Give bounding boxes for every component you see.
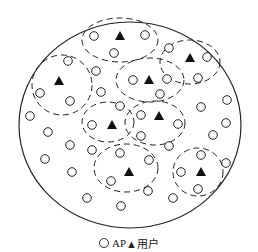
user-triangle-icon <box>154 111 164 120</box>
ap-circle-icon <box>169 194 178 203</box>
legend-user-label: ▲用户 <box>126 238 159 250</box>
ap-circle-icon <box>88 121 97 130</box>
user-triangle-icon <box>196 167 206 176</box>
ap-circle-icon <box>110 49 119 58</box>
user-triangle-icon <box>54 76 64 85</box>
legend: AP▲用户 <box>0 235 258 251</box>
ap-circle-icon <box>145 156 154 165</box>
ap-circle-icon <box>203 53 212 62</box>
ap-circle-icon <box>222 119 231 128</box>
ap-circle-icon <box>116 102 125 111</box>
ap-circle-icon <box>41 155 50 164</box>
ap-circle-icon <box>197 103 206 112</box>
ap-circle-icon <box>177 168 186 177</box>
ap-circle-icon <box>129 76 138 85</box>
ap-circle-icon <box>117 202 126 211</box>
user-triangle-icon <box>185 53 195 62</box>
ap-circle-icon <box>223 96 232 105</box>
ap-circle-icon <box>194 185 203 194</box>
ap-circle-icon <box>174 120 183 129</box>
user-triangle-icon <box>115 31 125 40</box>
ap-circle-icon <box>165 142 174 151</box>
user-triangle-icon <box>144 75 154 84</box>
user-triangle-icon <box>107 120 117 129</box>
ap-circle-icon <box>116 149 125 158</box>
ap-circle-icon <box>66 97 75 106</box>
ap-circle-icon <box>88 146 97 155</box>
ap-circle-icon <box>64 57 73 66</box>
ap-circle-icon <box>156 90 165 99</box>
ap-circle-icon <box>26 112 35 121</box>
ap-circle-icon <box>222 159 231 168</box>
ap-circle-icon <box>141 31 150 40</box>
ap-circle-icon <box>144 187 153 196</box>
user-group <box>54 31 206 176</box>
ap-circle-icon <box>99 238 109 248</box>
ap-group <box>26 31 232 211</box>
ap-circle-icon <box>90 32 99 41</box>
ap-circle-icon <box>137 132 146 141</box>
cluster-dashed-ellipse <box>94 144 158 192</box>
user-triangle-icon <box>124 167 134 176</box>
ap-circle-icon <box>209 131 218 140</box>
ap-circle-icon <box>107 177 116 186</box>
ap-circle-icon <box>44 128 53 137</box>
ap-circle-icon <box>66 141 75 150</box>
ap-circle-icon <box>163 75 172 84</box>
ap-circle-icon <box>83 194 92 203</box>
ap-circle-icon <box>97 88 106 97</box>
ap-user-distribution-diagram <box>0 0 258 232</box>
ap-circle-icon <box>194 74 203 83</box>
ap-circle-icon <box>68 168 77 177</box>
ap-circle-icon <box>92 67 101 76</box>
ap-circle-icon <box>137 111 146 120</box>
ap-circle-icon <box>197 151 206 160</box>
legend-ap-label: AP <box>112 237 126 249</box>
ap-circle-icon <box>165 44 174 53</box>
ap-circle-icon <box>36 89 45 98</box>
